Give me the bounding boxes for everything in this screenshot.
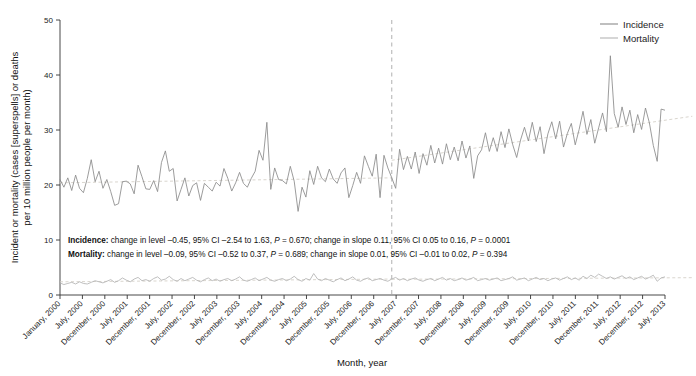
y-axis-title-line-1: Incident or mortality (cases [superspell…: [9, 51, 20, 263]
annotation-mortality: Mortality: change in level –0.09, 95% CI…: [68, 250, 508, 259]
annotation-incidence: Incidence: change in level –0.45, 95% CI…: [68, 236, 511, 245]
y-axis-title-line-2: per 10 million people per month): [21, 89, 32, 225]
x-axis-title: Month, year: [337, 357, 387, 368]
y-tick-label: 40: [44, 71, 53, 80]
chart-legend[interactable]: IncidenceMortality: [600, 19, 664, 44]
incidence-mortality-line-chart: 01020304050 January, 2000July, 2000Decem…: [0, 0, 696, 376]
incidence-trend: [60, 178, 392, 183]
chart-figure: 01020304050 January, 2000July, 2000Decem…: [0, 0, 696, 376]
statistics-annotation: Incidence: change in level –0.45, 95% CI…: [68, 236, 511, 259]
y-axis: 01020304050: [44, 16, 60, 300]
y-tick-label: 30: [44, 126, 53, 135]
y-tick-label: 0: [49, 291, 54, 300]
y-tick-label: 10: [44, 236, 53, 245]
y-tick-label: 50: [44, 16, 53, 25]
y-tick-label: 20: [44, 181, 53, 190]
x-axis-title-text: Month, year: [337, 357, 387, 368]
legend-label-mortality[interactable]: Mortality: [623, 33, 659, 44]
x-axis: January, 2000July, 2000December, 2000Jul…: [21, 295, 668, 347]
legend-label-incidence[interactable]: Incidence: [623, 19, 664, 30]
y-axis-title: Incident or mortality (cases [superspell…: [9, 51, 32, 263]
